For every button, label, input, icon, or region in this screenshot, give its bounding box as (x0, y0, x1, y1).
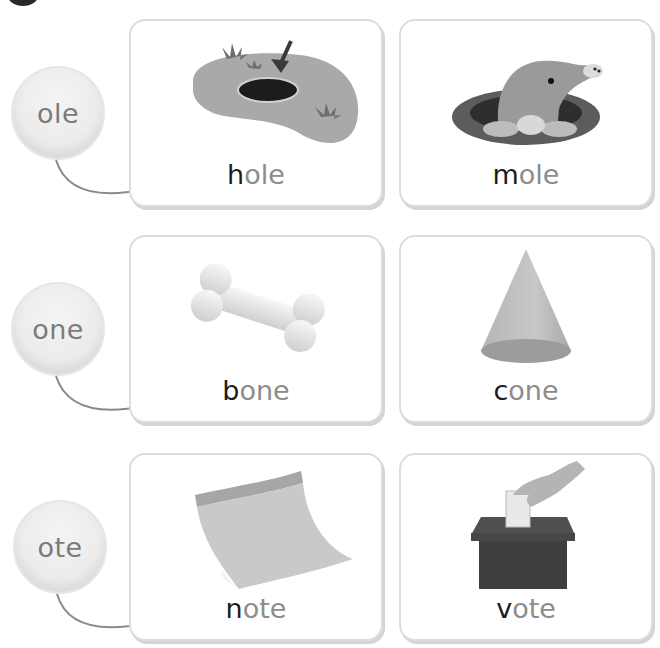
word-rime: ote (243, 593, 287, 624)
word-card-bone[interactable]: bone (129, 235, 383, 423)
word-family-row-one: one bone (0, 216, 660, 432)
word-card-mole[interactable]: mole (399, 19, 653, 207)
word-rime: ole (519, 159, 560, 190)
word-onset: m (493, 159, 519, 190)
word-card-cone[interactable]: cone (399, 235, 653, 423)
word-card-vote[interactable]: vote (399, 453, 653, 641)
word-onset: c (493, 375, 508, 406)
cone-icon (401, 237, 651, 377)
word-card-note[interactable]: note (129, 453, 383, 641)
note-paper-icon (131, 455, 381, 595)
word-onset: b (222, 375, 239, 406)
word-label: note (131, 593, 381, 625)
word-family-row-ole: ole hole mo (0, 0, 660, 220)
bone-icon (131, 237, 381, 377)
word-rime: one (508, 375, 558, 406)
word-family-row-ote: ote note vote (0, 434, 660, 648)
word-onset: h (227, 159, 244, 190)
ballot-box-icon (401, 455, 651, 595)
word-rime: ole (244, 159, 285, 190)
word-label: bone (131, 375, 381, 407)
word-onset: v (496, 593, 512, 624)
word-label: cone (401, 375, 651, 407)
word-card-hole[interactable]: hole (129, 19, 383, 207)
mole-icon (401, 21, 651, 161)
word-rime: one (239, 375, 289, 406)
word-label: hole (131, 159, 381, 191)
hole-icon (131, 21, 381, 161)
word-onset: n (226, 593, 243, 624)
word-rime: ote (512, 593, 556, 624)
word-label: mole (401, 159, 651, 191)
word-label: vote (401, 593, 651, 625)
